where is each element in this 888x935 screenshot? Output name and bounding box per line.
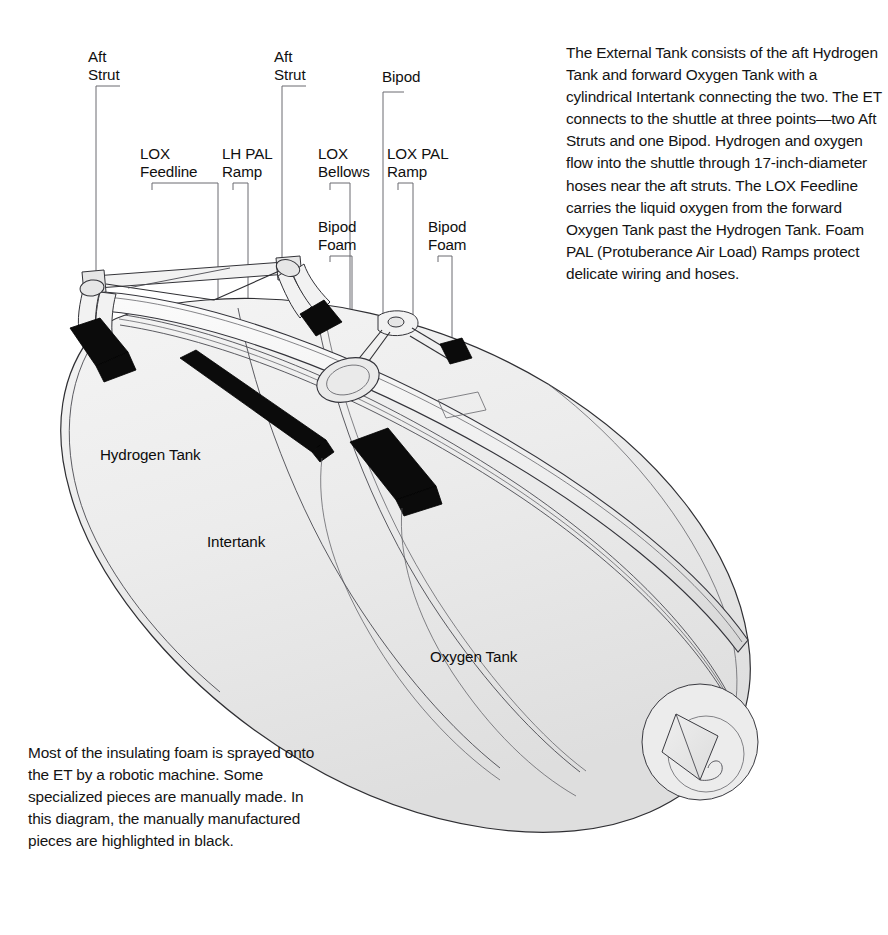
part-label-oxygen-tank: Oxygen Tank xyxy=(430,648,517,665)
part-label-intertank: Intertank xyxy=(207,533,265,550)
callout-bipod-foam-left: Bipod Foam xyxy=(318,218,356,253)
foam-note-paragraph: Most of the insulating foam is sprayed o… xyxy=(28,742,328,852)
diagram-canvas: The External Tank consists of the aft Hy… xyxy=(0,0,888,935)
callout-bipod-foam-right: Bipod Foam xyxy=(428,218,466,253)
callout-lox-pal-ramp: LOX PAL Ramp xyxy=(387,145,449,180)
part-label-hydrogen-tank: Hydrogen Tank xyxy=(100,446,201,463)
bipod-apex-pin xyxy=(388,317,404,327)
callout-lh-pal-ramp: LH PAL Ramp xyxy=(222,145,273,180)
callout-aft-strut-right: Aft Strut xyxy=(274,48,306,83)
aft-crossbeam xyxy=(94,262,288,288)
callout-lox-feedline: LOX Feedline xyxy=(140,145,197,180)
nose-detail-group xyxy=(642,684,758,800)
callout-bipod: Bipod xyxy=(382,68,420,86)
callout-lox-bellows: LOX Bellows xyxy=(318,145,370,180)
intro-paragraph: The External Tank consists of the aft Hy… xyxy=(566,42,886,285)
callout-aft-strut-left: Aft Strut xyxy=(88,48,120,83)
